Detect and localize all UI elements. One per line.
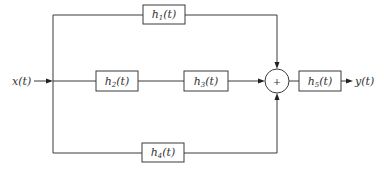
block-h5: h5(t): [299, 71, 341, 91]
arrow-down-icon: [275, 62, 280, 69]
block-h1: h1(t): [143, 5, 185, 24]
svg-text:h4(t): h4(t): [151, 146, 176, 160]
summer-plus: +: [273, 76, 281, 87]
svg-text:h5(t): h5(t): [308, 75, 333, 89]
output-arrow-icon: [346, 79, 353, 84]
block-h2: h2(t): [96, 71, 138, 91]
svg-text:h3(t): h3(t): [194, 75, 219, 89]
svg-text:h2(t): h2(t): [105, 75, 130, 89]
arrow-right-icon: [258, 79, 265, 84]
block-h4: h4(t): [142, 143, 184, 162]
input-label: x(t): [12, 75, 31, 88]
arrow-up-icon: [275, 93, 280, 100]
block-h3: h3(t): [184, 71, 228, 91]
input-arrow-icon: [46, 79, 53, 84]
block-diagram: x(t) + y(t) h1(t) h2(t) h3(t) h4(t): [0, 0, 384, 174]
svg-text:h1(t): h1(t): [152, 8, 177, 22]
output-label: y(t): [354, 75, 374, 88]
